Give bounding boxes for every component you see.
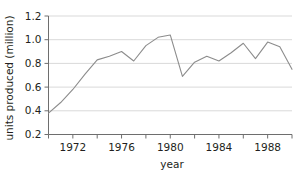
y-tick-label: 1.0 xyxy=(25,33,42,45)
y-tick-label: 0.8 xyxy=(25,57,42,69)
series-line-units-produced xyxy=(49,35,293,113)
x-tick-label: 1984 xyxy=(206,141,233,153)
line-chart: 0.20.40.60.81.01.2 19721976198019841988 … xyxy=(0,0,301,174)
x-axis xyxy=(49,135,293,139)
y-tick-label: 0.2 xyxy=(25,128,42,140)
data-series-line xyxy=(49,35,293,113)
y-tick-label: 0.4 xyxy=(25,104,42,116)
x-tick-label: 1980 xyxy=(157,141,184,153)
x-axis-title: year xyxy=(160,158,184,170)
y-axis xyxy=(45,16,49,135)
y-tick-label: 1.2 xyxy=(25,10,42,22)
x-tick-label: 1976 xyxy=(108,141,135,153)
chart-canvas: 0.20.40.60.81.01.2 19721976198019841988 … xyxy=(0,0,301,174)
y-tick-label: 0.6 xyxy=(25,81,42,93)
gridlines xyxy=(49,16,293,111)
x-tick-label: 1972 xyxy=(59,141,86,153)
y-axis-title: units produced (million) xyxy=(3,15,15,140)
x-tick-labels: 19721976198019841988 xyxy=(59,141,281,153)
x-tick-label: 1988 xyxy=(254,141,281,153)
y-tick-labels: 0.20.40.60.81.01.2 xyxy=(25,10,42,141)
